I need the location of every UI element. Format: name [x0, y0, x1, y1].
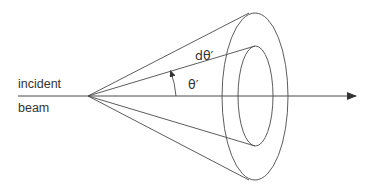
- cone-scattering-diagram: incident beam dθ′ θ′: [0, 0, 369, 195]
- outer-cone-bottom-line: [88, 96, 249, 180]
- theta-angle-arc: [171, 71, 177, 96]
- beam-label: beam: [18, 101, 49, 115]
- inner-cone-top-line: [88, 46, 255, 96]
- inner-cone-bottom-line: [88, 96, 255, 146]
- incident-label: incident: [18, 77, 62, 91]
- dtheta-prime-label: dθ′: [195, 48, 214, 63]
- outer-cone-top-line: [88, 13, 249, 96]
- theta-prime-label: θ′: [188, 77, 199, 92]
